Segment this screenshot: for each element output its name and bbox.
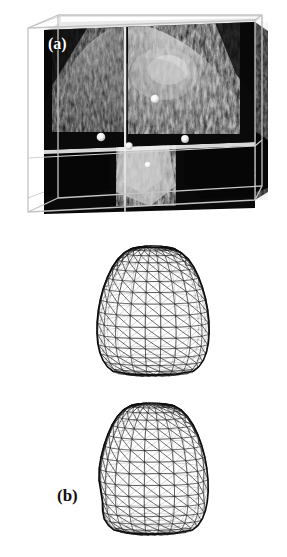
panel-b-smooth-mesh: (b) xyxy=(0,222,287,390)
ultrasound-coronal-slice xyxy=(44,20,256,160)
panel-a-graphic xyxy=(0,0,287,222)
panel-a-volume-rendering: (a) xyxy=(0,0,287,222)
panel-c-graphic xyxy=(0,382,287,557)
figure-container: (a) (b) (c) xyxy=(0,0,287,557)
panel-a-label: (a) xyxy=(48,36,67,52)
panel-c-irregular-mesh: (c) xyxy=(0,382,287,557)
panel-b-graphic xyxy=(0,222,287,390)
